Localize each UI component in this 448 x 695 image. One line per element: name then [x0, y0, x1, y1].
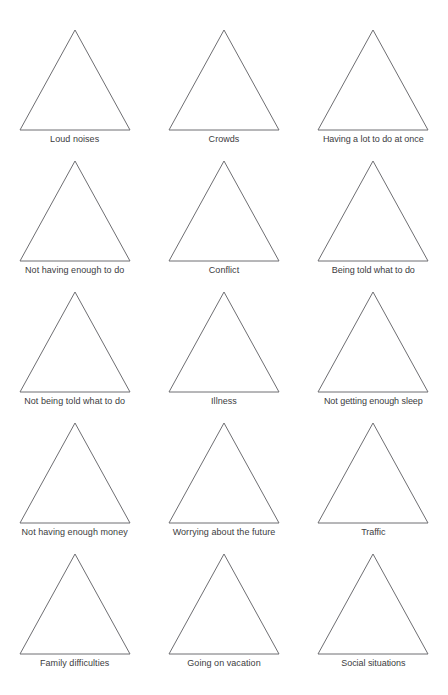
triangle-card[interactable]: Not having enough money	[0, 417, 149, 548]
triangle-card-grid: Loud noisesCrowdsHaving a lot to do at o…	[0, 24, 448, 679]
worksheet-canvas: Loud noisesCrowdsHaving a lot to do at o…	[0, 0, 448, 695]
triangle-icon	[19, 553, 131, 655]
triangle-card-label: Social situations	[299, 657, 448, 669]
triangle-card[interactable]: Traffic	[299, 417, 448, 548]
triangle-card[interactable]: Being told what to do	[299, 155, 448, 286]
triangle-icon	[168, 553, 280, 655]
triangle-card[interactable]: Not having enough to do	[0, 155, 149, 286]
triangle-card[interactable]: Crowds	[149, 24, 298, 155]
triangle-icon	[317, 29, 429, 131]
triangle-card-label: Not having enough money	[0, 526, 149, 538]
triangle-card[interactable]: Worrying about the future	[149, 417, 298, 548]
triangle-card-label: Worrying about the future	[149, 526, 298, 538]
triangle-card-label: Family difficulties	[0, 657, 149, 669]
triangle-card[interactable]: Not getting enough sleep	[299, 286, 448, 417]
triangle-icon	[19, 29, 131, 131]
triangle-card[interactable]: Going on vacation	[149, 548, 298, 679]
triangle-card-label: Crowds	[149, 133, 298, 145]
triangle-icon	[168, 291, 280, 393]
triangle-card-label: Being told what to do	[299, 264, 448, 276]
triangle-card[interactable]: Not being told what to do	[0, 286, 149, 417]
triangle-icon	[317, 291, 429, 393]
triangle-card[interactable]: Conflict	[149, 155, 298, 286]
triangle-card-label: Not being told what to do	[0, 395, 149, 407]
triangle-card[interactable]: Loud noises	[0, 24, 149, 155]
triangle-card-label: Illness	[149, 395, 298, 407]
triangle-card-label: Going on vacation	[149, 657, 298, 669]
triangle-card-label: Not having enough to do	[0, 264, 149, 276]
triangle-icon	[317, 553, 429, 655]
triangle-card-label: Traffic	[299, 526, 448, 538]
triangle-icon	[317, 160, 429, 262]
triangle-card[interactable]: Family difficulties	[0, 548, 149, 679]
triangle-icon	[19, 160, 131, 262]
triangle-icon	[168, 422, 280, 524]
triangle-card-label: Conflict	[149, 264, 298, 276]
triangle-card-label: Having a lot to do at once	[299, 133, 448, 145]
triangle-icon	[19, 291, 131, 393]
triangle-icon	[317, 422, 429, 524]
triangle-card[interactable]: Illness	[149, 286, 298, 417]
triangle-card[interactable]: Social situations	[299, 548, 448, 679]
triangle-icon	[19, 422, 131, 524]
triangle-card[interactable]: Having a lot to do at once	[299, 24, 448, 155]
triangle-icon	[168, 29, 280, 131]
triangle-icon	[168, 160, 280, 262]
triangle-card-label: Loud noises	[0, 133, 149, 145]
triangle-card-label: Not getting enough sleep	[299, 395, 448, 407]
